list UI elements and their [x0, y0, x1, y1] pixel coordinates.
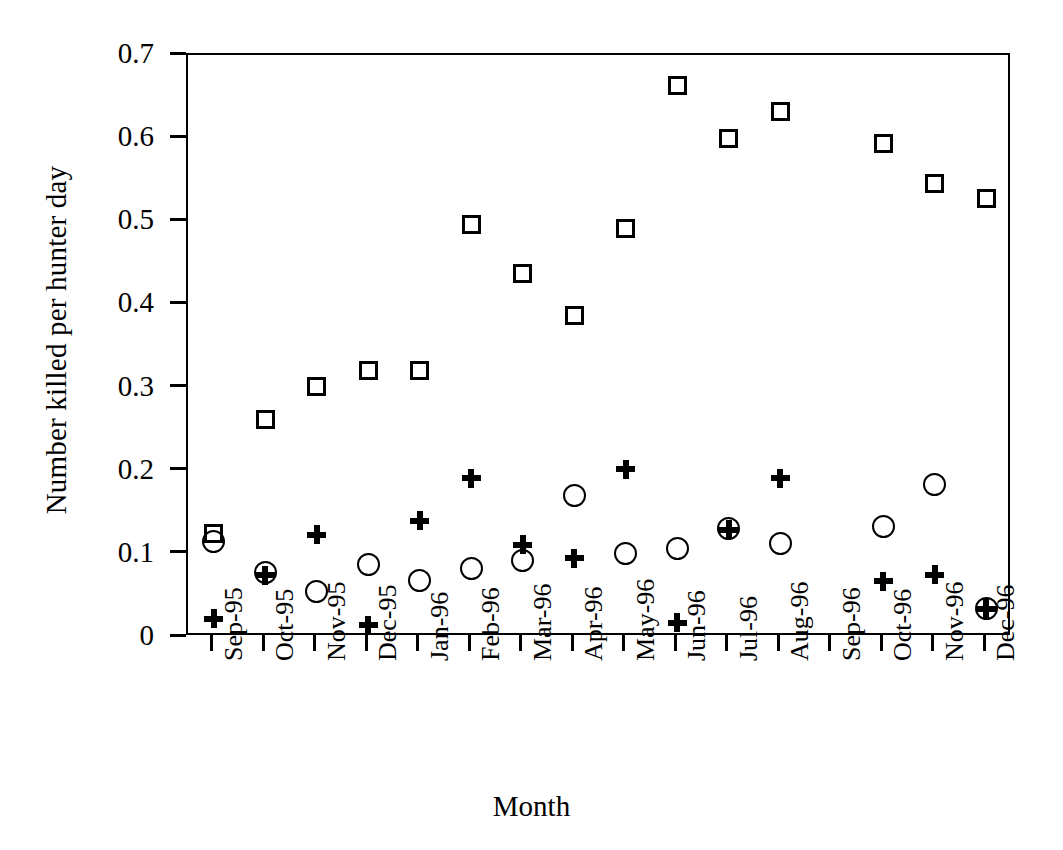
- y-tick-label: 0.3: [118, 365, 154, 407]
- data-point-open-square: [925, 174, 944, 193]
- x-tick-mark: [365, 635, 368, 651]
- x-tick-label-text: Oct-96: [890, 589, 916, 661]
- x-tick-mark: [468, 635, 471, 651]
- y-tick-label: 0.6: [118, 115, 154, 157]
- data-point-open-circle: [614, 542, 637, 565]
- x-tick-label-text: Jul-96: [736, 596, 762, 661]
- x-tick-label-text: Jan-96: [427, 592, 453, 661]
- y-axis-title: Number killed per hunter day: [30, 0, 82, 690]
- data-point-open-square: [307, 377, 326, 396]
- x-tick-label-text: Nov-96: [942, 582, 968, 661]
- data-point-open-square: [513, 264, 532, 283]
- data-point-open-circle: [460, 557, 483, 580]
- data-point-open-square: [359, 361, 378, 380]
- x-tick-mark: [262, 635, 265, 651]
- x-tick-mark: [571, 635, 574, 651]
- data-point-open-square: [462, 215, 481, 234]
- x-tick-label-text: Dec-95: [375, 584, 401, 661]
- x-tick-mark: [313, 635, 316, 651]
- data-point-open-circle: [357, 553, 380, 576]
- data-point-open-circle: [666, 537, 689, 560]
- data-point-plus: [565, 549, 584, 568]
- x-tick-label-text: Mar-96: [530, 584, 556, 661]
- data-point-open-square: [256, 410, 275, 429]
- data-point-plus: [256, 566, 275, 585]
- y-tick-mark: [170, 634, 186, 637]
- y-tick-label: 0.5: [118, 198, 154, 240]
- x-tick-label-text: Sep-96: [839, 587, 865, 661]
- y-tick-mark: [170, 218, 186, 221]
- data-point-plus: [307, 525, 326, 544]
- x-tick-mark: [931, 635, 934, 651]
- x-tick-label-text: Feb-96: [478, 587, 504, 661]
- data-point-open-square: [977, 189, 996, 208]
- data-point-plus: [616, 460, 635, 479]
- x-tick-mark: [777, 635, 780, 651]
- y-tick-label: 0.7: [118, 32, 154, 74]
- x-tick-mark: [519, 635, 522, 651]
- x-tick-mark: [725, 635, 728, 651]
- y-tick-mark: [170, 467, 186, 470]
- x-tick-mark: [416, 635, 419, 651]
- y-tick-label: 0: [140, 614, 155, 656]
- x-tick-label-text: Aug-96: [787, 582, 813, 661]
- x-tick-label-text: Apr-96: [581, 586, 607, 661]
- data-point-open-square: [616, 219, 635, 238]
- data-point-open-circle: [923, 473, 946, 496]
- data-point-open-square: [410, 361, 429, 380]
- x-tick-label-text: May-96: [633, 579, 659, 661]
- y-tick-mark: [170, 384, 186, 387]
- data-point-open-square: [668, 76, 687, 95]
- data-point-open-circle: [563, 484, 586, 507]
- y-tick-mark: [170, 550, 186, 553]
- y-tick-mark: [170, 301, 186, 304]
- data-point-open-circle: [202, 530, 225, 553]
- x-tick-mark: [622, 635, 625, 651]
- y-tick-label: 0.1: [118, 531, 154, 573]
- x-tick-mark: [983, 635, 986, 651]
- x-tick-label-text: Nov-95: [324, 582, 350, 661]
- x-tick-label-text: Jun-96: [684, 590, 710, 661]
- data-point-plus: [513, 535, 532, 554]
- plot-area: [186, 53, 1010, 635]
- data-point-open-circle: [408, 569, 431, 592]
- y-tick-mark: [170, 135, 186, 138]
- x-tick-mark: [210, 635, 213, 651]
- chart-figure: Number killed per hunter day 00.10.20.30…: [0, 0, 1063, 850]
- x-tick-mark: [880, 635, 883, 651]
- x-tick-label-text: Oct-95: [272, 589, 298, 661]
- data-point-plus: [462, 469, 481, 488]
- y-tick-label: 0.2: [118, 448, 154, 490]
- data-point-open-square: [874, 134, 893, 153]
- x-tick-mark: [674, 635, 677, 651]
- x-tick-label-text: Sep-95: [221, 587, 247, 661]
- data-point-plus: [771, 469, 790, 488]
- data-point-open-square: [719, 129, 738, 148]
- data-point-open-square: [565, 306, 584, 325]
- data-point-plus: [719, 520, 738, 539]
- x-axis-title: Month: [0, 790, 1063, 823]
- data-point-open-circle: [769, 532, 792, 555]
- data-point-open-circle: [872, 515, 895, 538]
- y-tick-label: 0.4: [118, 281, 154, 323]
- x-tick-label-text: Dec-96: [993, 584, 1019, 661]
- data-point-plus: [410, 511, 429, 530]
- data-point-open-square: [771, 102, 790, 121]
- y-tick-mark: [170, 52, 186, 55]
- x-tick-mark: [828, 635, 831, 651]
